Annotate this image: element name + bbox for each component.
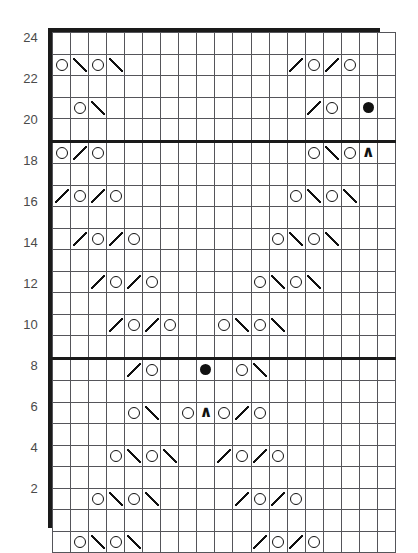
chart-cell [269, 250, 287, 272]
chart-row [53, 467, 396, 489]
chart-cell [305, 402, 323, 424]
chart-cell [305, 164, 323, 186]
cell-symbol [324, 98, 341, 119]
chart-cell [107, 250, 125, 272]
chart-cell [323, 336, 341, 359]
chart-cell [179, 33, 197, 55]
yarn-over-icon [110, 536, 122, 548]
chart-cell [251, 381, 269, 403]
cell-symbol [107, 186, 124, 207]
cell-symbol [233, 489, 250, 510]
chart-cell [287, 76, 305, 98]
chart-cell [89, 119, 107, 142]
chart-cell [53, 207, 71, 229]
chart-cell [305, 54, 323, 76]
chart-cell [377, 54, 395, 76]
chart-cell [89, 488, 107, 510]
chart-cell [323, 33, 341, 55]
chart-cell [359, 164, 377, 186]
cell-symbol [252, 446, 269, 467]
chart-cell [143, 467, 161, 489]
cell-symbol [324, 229, 341, 250]
chart-cell [305, 185, 323, 207]
chart-cell [197, 467, 215, 489]
chart-cell [287, 250, 305, 272]
chart-cell [287, 358, 305, 381]
chart-cell [107, 164, 125, 186]
chart-cell [251, 314, 269, 336]
cell-symbol [125, 489, 142, 510]
k2tog-icon [253, 363, 267, 377]
chart-cell [125, 33, 143, 55]
cell-symbol [233, 403, 250, 424]
chart-cell [53, 488, 71, 510]
cell-symbol [89, 272, 106, 293]
row-number-left-22: 22 [8, 72, 38, 86]
chart-cell [251, 293, 269, 315]
chart-cell [179, 510, 197, 532]
yarn-over-icon [182, 407, 194, 419]
chart-cell [233, 445, 251, 467]
chart-cell [233, 250, 251, 272]
chart-cell [53, 185, 71, 207]
yarn-over-icon [56, 59, 68, 71]
chart-cell [125, 119, 143, 142]
k2tog-icon [235, 318, 249, 332]
chart-cell [179, 293, 197, 315]
cell-symbol [107, 229, 124, 250]
chart-cell [53, 141, 71, 164]
chart-cell [89, 531, 107, 553]
chart-cell [323, 402, 341, 424]
cell-symbol [107, 489, 124, 510]
chart-cell [377, 164, 395, 186]
k2tog-icon [91, 535, 105, 549]
chart-cell [125, 293, 143, 315]
chart-cell [143, 33, 161, 55]
chart-cell [143, 250, 161, 272]
chart-cell [161, 185, 179, 207]
k2tog-icon [307, 275, 321, 289]
yarn-over-icon [110, 190, 122, 202]
chart-cell [179, 314, 197, 336]
chart-cell [359, 467, 377, 489]
cell-symbol [288, 489, 305, 510]
chart-cell [71, 76, 89, 98]
chart-cell [341, 424, 359, 446]
chart-grid: ∧∧ [48, 28, 380, 528]
chart-cell [71, 531, 89, 553]
chart-row [53, 293, 396, 315]
cell-symbol [71, 229, 88, 250]
chart-cell [161, 54, 179, 76]
chart-cell [233, 402, 251, 424]
chart-cell [125, 402, 143, 424]
chart-cell [215, 293, 233, 315]
cell-symbol [107, 55, 124, 76]
chart-cell [89, 467, 107, 489]
cell-symbol [342, 143, 359, 164]
cell-symbol [252, 272, 269, 293]
chart-cell [377, 33, 395, 55]
chart-cell [305, 119, 323, 142]
cell-symbol [107, 532, 124, 553]
chart-cell [269, 488, 287, 510]
cell-symbol [125, 532, 142, 553]
chart-cell [233, 271, 251, 293]
ssk-icon [217, 449, 231, 463]
chart-cell [377, 119, 395, 142]
chart-row: ∧ [53, 402, 396, 424]
chart-cell [251, 76, 269, 98]
chart-cell [251, 445, 269, 467]
chart-row [53, 488, 396, 510]
chart-cell [359, 54, 377, 76]
cell-symbol [270, 489, 287, 510]
chart-cell [53, 402, 71, 424]
cell-symbol [288, 55, 305, 76]
chart-cell [71, 381, 89, 403]
chart-row [53, 76, 396, 98]
chart-cell [143, 271, 161, 293]
chart-cell [161, 467, 179, 489]
cell-symbol [179, 403, 196, 424]
row-number-left-20: 20 [8, 113, 38, 127]
chart-cell [143, 510, 161, 532]
